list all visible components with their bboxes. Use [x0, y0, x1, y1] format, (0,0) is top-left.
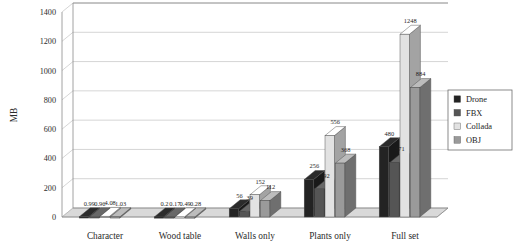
x-category-label: Full set — [391, 231, 419, 241]
bar-value-label: 368 — [341, 146, 351, 153]
y-tick-label: 0 — [52, 213, 56, 222]
bar-value-label: 1248 — [404, 17, 417, 24]
legend-label: FBX — [466, 109, 482, 118]
bar-value-label: 556 — [330, 118, 340, 125]
x-category-label: Character — [87, 231, 124, 241]
chart-legend: DroneFBXColladaOBJ — [448, 90, 512, 150]
legend-label: Drone — [466, 95, 487, 104]
legend-swatch — [454, 109, 461, 116]
y-tick-label: 600 — [44, 125, 56, 134]
bar-value-label: 371 — [395, 145, 405, 152]
y-axis-title: MB — [9, 108, 19, 122]
y-tick-label: 1000 — [40, 67, 56, 76]
y-tick-label: 800 — [44, 96, 56, 105]
x-axis-category-labels: CharacterWood tableWalls onlyPlants only… — [87, 231, 419, 241]
bar-chart: 0200400600800100012001400 0.990.964.081.… — [0, 0, 521, 249]
bar-value-label: 0.2 — [160, 200, 168, 207]
bar-value-label: 256 — [310, 162, 320, 169]
x-category-label: Plants only — [309, 231, 351, 241]
bar-value-label: 0.28 — [190, 200, 201, 207]
bar-value-label: 1.03 — [115, 200, 126, 207]
bar — [410, 79, 430, 217]
x-category-label: Walls only — [235, 231, 275, 241]
y-tick-label: 200 — [44, 184, 56, 193]
y-tick-label: 1400 — [40, 8, 56, 17]
y-tick-label: 1200 — [40, 37, 56, 46]
legend-swatch — [454, 123, 461, 130]
bar-value-label: 192 — [320, 172, 330, 179]
legend-label: OBJ — [466, 136, 482, 145]
legend-label: Collada — [466, 122, 492, 131]
bar-value-label: 480 — [385, 130, 395, 137]
bar-value-label: 884 — [416, 70, 426, 77]
bar-value-label: 39 — [247, 194, 253, 201]
chart-canvas: 0200400600800100012001400 0.990.964.081.… — [0, 0, 521, 249]
x-category-label: Wood table — [159, 231, 201, 241]
legend-swatch — [454, 137, 461, 144]
y-tick-label: 400 — [44, 154, 56, 163]
y-axis-ticks: 0200400600800100012001400 — [40, 8, 56, 222]
bar-series-group — [79, 25, 431, 218]
bar-value-label: 56 — [236, 192, 242, 199]
bar-value-label: 112 — [266, 183, 275, 190]
legend-swatch — [454, 96, 461, 103]
bar-value-labels: 0.990.964.081.030.20.170.490.28563915211… — [84, 17, 426, 207]
bar-value-label: 152 — [255, 178, 265, 185]
bar — [335, 154, 355, 217]
